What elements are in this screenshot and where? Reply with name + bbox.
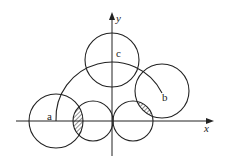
x-axis [16, 118, 214, 124]
label-b: b [162, 91, 168, 103]
x-axis-label: x [203, 122, 209, 134]
label-c: c [116, 47, 121, 59]
y-axis-arrow-icon [109, 12, 115, 20]
y-axis-label: y [115, 12, 121, 24]
label-a: a [47, 110, 52, 122]
geometry-diagram: a b c y x [0, 0, 230, 168]
